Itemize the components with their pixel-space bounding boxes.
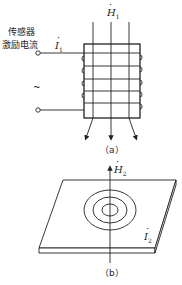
current-i1-label: I1 [55, 41, 63, 55]
ac-source-symbol: ~ [33, 82, 41, 92]
current-i2-label: I2 [144, 232, 152, 246]
figure-a-coil [36, 22, 142, 138]
figure-b-plate [39, 168, 176, 263]
terminal-bottom [36, 108, 40, 112]
caption-b: （b） [100, 268, 124, 278]
field-h1-label: H1 [107, 8, 120, 22]
terminal-top [36, 51, 40, 55]
sensor-label-line2: 激励电流 [2, 40, 38, 50]
caption-a: （a） [100, 145, 124, 155]
coil-core [84, 44, 140, 118]
sensor-label-line1: 传感器 [8, 27, 35, 37]
field-h2-label: H2 [114, 165, 127, 179]
